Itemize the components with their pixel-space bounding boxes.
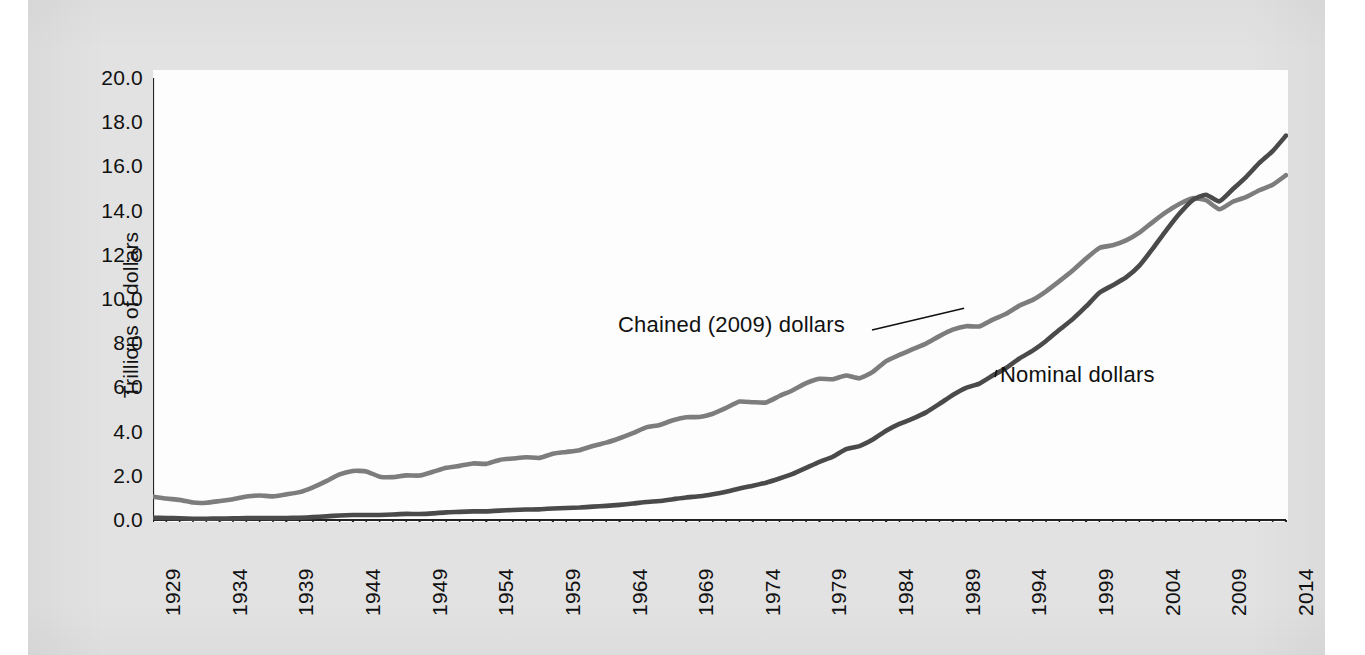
y-axis-tick-label: 20.0 [101,66,143,90]
series-label-chained-2009-dollars: Chained (2009) dollars [618,312,845,338]
y-axis-tick-label: 2.0 [113,464,143,488]
y-axis-tick-label: 16.0 [101,154,143,178]
y-axis-title: Trillions of dollars [119,232,143,399]
plot-area: Trillions of dollars [153,70,1288,522]
series-line-chained-2009-dollars [153,175,1286,503]
chart-canvas [153,70,1288,522]
page-root: in the same period and the relative pric… [0,0,1365,655]
y-axis-tick-label: 18.0 [101,110,143,134]
y-axis-tick-label: 0.0 [113,508,143,532]
y-axis-tick-label: 14.0 [101,199,143,223]
series-label-nominal-dollars: Nominal dollars [1000,362,1155,388]
y-axis-tick-label: 4.0 [113,420,143,444]
